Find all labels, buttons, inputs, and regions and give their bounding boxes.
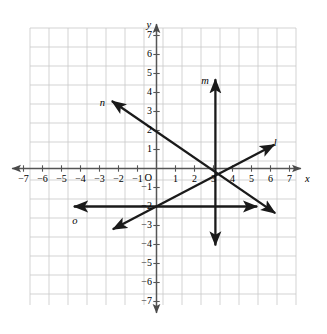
x-tick-label-neg4: −4 — [75, 174, 86, 184]
graph-canvas — [0, 0, 327, 334]
y-tick-label-4: 4 — [147, 87, 152, 97]
y-axis-label: y — [147, 20, 152, 31]
y-tick-label-3: 3 — [147, 106, 152, 116]
grid-lines — [30, 28, 296, 305]
x-tick-label-2: 2 — [192, 174, 197, 184]
x-axis-label: x — [305, 174, 310, 185]
x-tick-label-7: 7 — [287, 174, 292, 184]
coordinate-plane-figure: −7−6−5−4−3−2−112345677654321−1−2−3−4−5−6… — [0, 0, 327, 334]
y-tick-label-neg3: −3 — [141, 220, 152, 230]
y-tick-label-neg6: −6 — [141, 277, 152, 287]
y-tick-label-2: 2 — [147, 125, 152, 135]
y-tick-label-neg2: −2 — [141, 201, 152, 211]
x-tick-label-3: 3 — [211, 174, 216, 184]
y-tick-label-5: 5 — [147, 68, 152, 78]
line-label-l: l — [274, 138, 277, 149]
x-tick-label-5: 5 — [249, 174, 254, 184]
line-label-m: m — [201, 76, 209, 87]
x-tick-label-4: 4 — [230, 174, 235, 184]
y-tick-label-6: 6 — [147, 49, 152, 59]
x-tick-label-neg2: −2 — [113, 174, 124, 184]
y-tick-label-7: 7 — [147, 30, 152, 40]
x-tick-label-neg7: −7 — [18, 174, 29, 184]
origin-label: O — [144, 173, 152, 184]
y-tick-label-neg7: −7 — [141, 296, 152, 306]
x-tick-label-neg3: −3 — [94, 174, 105, 184]
x-tick-label-1: 1 — [173, 174, 178, 184]
line-label-n: n — [100, 98, 105, 109]
y-tick-label-1: 1 — [147, 144, 152, 154]
axes — [12, 24, 301, 313]
x-tick-label-neg5: −5 — [56, 174, 67, 184]
line-label-o: o — [72, 216, 77, 227]
x-tick-label-6: 6 — [268, 174, 273, 184]
y-tick-label-neg5: −5 — [141, 258, 152, 268]
y-tick-label-neg4: −4 — [141, 239, 152, 249]
y-tick-label-neg1: −1 — [141, 182, 152, 192]
x-tick-label-neg6: −6 — [37, 174, 48, 184]
